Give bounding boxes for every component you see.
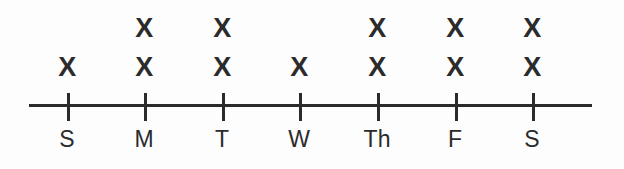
data-mark-x: X — [114, 54, 174, 81]
data-mark-x: X — [37, 54, 97, 81]
data-mark-x: X — [269, 54, 329, 81]
axis-tick — [67, 93, 70, 121]
data-mark-x: X — [347, 15, 407, 42]
mark-stack: X X — [114, 0, 174, 93]
mark-stack: X X — [425, 0, 485, 93]
mark-stack: X X — [502, 0, 562, 93]
axis-label-monday: M — [104, 128, 184, 151]
axis-label-wednesday: W — [259, 128, 339, 151]
axis-tick — [299, 93, 302, 121]
data-mark-x: X — [425, 15, 485, 42]
data-mark-x: X — [425, 54, 485, 81]
axis-label-thursday: Th — [337, 128, 417, 151]
dot-plot-chart: X X X X X X X X X X X X S M T W Th F S — [0, 0, 624, 169]
axis-label-saturday: S — [492, 128, 572, 151]
data-mark-x: X — [114, 15, 174, 42]
data-mark-x: X — [502, 54, 562, 81]
axis-line — [29, 104, 592, 107]
mark-stack: X — [37, 0, 97, 93]
data-mark-x: X — [502, 15, 562, 42]
data-mark-x: X — [192, 54, 252, 81]
mark-stack: X X — [347, 0, 407, 93]
axis-tick — [532, 93, 535, 121]
axis-tick — [144, 93, 147, 121]
data-mark-x: X — [192, 15, 252, 42]
axis-label-tuesday: T — [182, 128, 262, 151]
axis-tick — [455, 93, 458, 121]
mark-stack: X X — [192, 0, 252, 93]
axis-label-sunday: S — [27, 128, 107, 151]
axis-label-friday: F — [415, 128, 495, 151]
mark-stack: X — [269, 0, 329, 93]
axis-tick — [377, 93, 380, 121]
axis-tick — [222, 93, 225, 121]
data-mark-x: X — [347, 54, 407, 81]
